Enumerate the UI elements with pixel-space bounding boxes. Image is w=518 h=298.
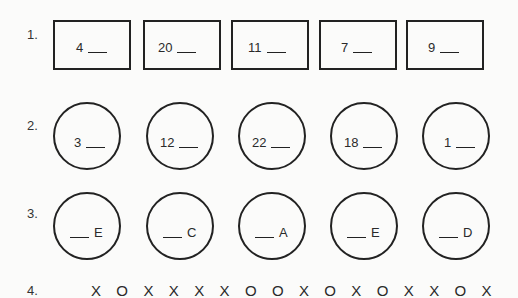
- letter-circle: E: [53, 192, 121, 260]
- answer-blank[interactable]: [440, 52, 459, 53]
- box-number: 4: [76, 40, 83, 55]
- box-number: 7: [341, 40, 348, 55]
- circle-number: 18: [344, 135, 358, 150]
- number-circle: 3: [53, 102, 121, 170]
- answer-blank[interactable]: [177, 52, 196, 53]
- circle-letter: E: [371, 225, 380, 240]
- letter-circle: C: [146, 192, 214, 260]
- number-circle: 12: [146, 102, 214, 170]
- problem-number-2: 2.: [27, 118, 38, 133]
- letter-circle: A: [238, 192, 306, 260]
- number-box: 9: [406, 20, 484, 70]
- xo-sequence: X O X X X X O O X O X O X X O X: [91, 282, 497, 298]
- box-number: 9: [428, 40, 435, 55]
- answer-blank[interactable]: [353, 52, 372, 53]
- problem-number-1: 1.: [27, 27, 38, 42]
- number-box: 11: [231, 20, 309, 70]
- number-circle: 1: [422, 102, 490, 170]
- letter-circle: E: [330, 192, 398, 260]
- circle-letter: E: [94, 225, 103, 240]
- box-number: 20: [158, 40, 172, 55]
- number-box: 7: [319, 20, 397, 70]
- answer-blank[interactable]: [255, 237, 274, 238]
- answer-blank[interactable]: [179, 147, 198, 148]
- number-box: 4: [53, 20, 131, 70]
- circle-number: 3: [74, 135, 81, 150]
- answer-blank[interactable]: [347, 237, 366, 238]
- problem-number-4: 4.: [27, 283, 38, 298]
- number-box: 20: [143, 20, 221, 70]
- circle-letter: C: [187, 225, 196, 240]
- answer-blank[interactable]: [439, 237, 458, 238]
- answer-blank[interactable]: [267, 52, 286, 53]
- answer-blank[interactable]: [456, 147, 475, 148]
- answer-blank[interactable]: [86, 147, 105, 148]
- number-circle: 18: [330, 102, 398, 170]
- answer-blank[interactable]: [363, 147, 382, 148]
- problem-number-3: 3.: [27, 206, 38, 221]
- answer-blank[interactable]: [163, 237, 182, 238]
- circle-number: 1: [444, 135, 451, 150]
- circle-number: 12: [160, 135, 174, 150]
- circle-number: 22: [252, 135, 266, 150]
- circle-letter: A: [279, 225, 288, 240]
- answer-blank[interactable]: [271, 147, 290, 148]
- answer-blank[interactable]: [88, 52, 107, 53]
- circle-letter: D: [463, 225, 472, 240]
- number-circle: 22: [238, 102, 306, 170]
- answer-blank[interactable]: [70, 237, 89, 238]
- letter-circle: D: [422, 192, 490, 260]
- box-number: 11: [248, 40, 262, 55]
